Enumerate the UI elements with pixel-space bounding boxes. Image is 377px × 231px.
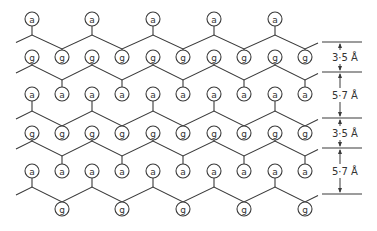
- group-node-a: a: [85, 164, 99, 178]
- group-node-g: g: [55, 50, 69, 64]
- group-node-g: g: [268, 126, 282, 140]
- group-node-g: g: [298, 50, 312, 64]
- arrow-down-icon: [338, 188, 342, 193]
- node-label: g: [89, 129, 95, 139]
- chain-backbone-5: [16, 187, 318, 202]
- group-node-g: g: [176, 202, 190, 216]
- node-label: g: [180, 129, 186, 139]
- group-node-g: g: [55, 126, 69, 140]
- group-node-a: a: [207, 164, 221, 178]
- group-node-a: a: [115, 164, 129, 178]
- group-node-g: g: [207, 50, 221, 64]
- spacing-indicator: 3·5 Å: [332, 119, 358, 147]
- node-label: g: [241, 205, 247, 215]
- scale-bar: 3·5 Å5·7 Å3·5 Å5·7 Å: [322, 42, 362, 194]
- chain-backbone-4: [16, 141, 318, 156]
- group-node-g: g: [115, 126, 129, 140]
- group-node-a: a: [146, 164, 160, 178]
- node-label: g: [241, 53, 247, 63]
- node-label: a: [29, 90, 35, 100]
- node-label: a: [272, 15, 278, 25]
- spacing-label: 3·5 Å: [332, 51, 358, 63]
- group-node-g: g: [85, 50, 99, 64]
- node-label: a: [302, 167, 308, 177]
- node-label: a: [119, 90, 125, 100]
- group-node-a: a: [85, 87, 99, 101]
- node-label: g: [119, 205, 125, 215]
- group-node-g: g: [25, 50, 39, 64]
- layered-chain-diagram: aaaaagggggaaaaaaaaaagggggaaaaaaaaaaggggg…: [0, 0, 377, 231]
- node-label: g: [272, 129, 278, 139]
- spacing-label: 3·5 Å: [332, 127, 358, 139]
- arrow-up-icon: [338, 149, 342, 154]
- node-label: a: [89, 167, 95, 177]
- group-node-g: g: [25, 126, 39, 140]
- group-node-a: a: [146, 12, 160, 26]
- node-label: a: [272, 90, 278, 100]
- group-node-a: a: [176, 164, 190, 178]
- group-node-g: g: [115, 202, 129, 216]
- node-label: g: [119, 129, 125, 139]
- group-node-g: g: [237, 202, 251, 216]
- node-label: a: [150, 167, 156, 177]
- node-label: a: [211, 167, 217, 177]
- group-node-a: a: [115, 87, 129, 101]
- node-label: a: [241, 90, 247, 100]
- arrow-up-icon: [338, 43, 342, 48]
- group-node-a: a: [25, 164, 39, 178]
- group-node-a: a: [55, 164, 69, 178]
- node-label: g: [59, 53, 65, 63]
- group-node-g: g: [85, 126, 99, 140]
- node-label: g: [150, 53, 156, 63]
- node-label: g: [272, 53, 278, 63]
- group-node-a: a: [25, 87, 39, 101]
- node-label: a: [241, 167, 247, 177]
- group-node-a: a: [146, 87, 160, 101]
- chain-backbone-1: [16, 35, 318, 49]
- node-label: a: [59, 90, 65, 100]
- group-node-g: g: [237, 126, 251, 140]
- group-node-a: a: [237, 87, 251, 101]
- group-node-g: g: [298, 202, 312, 216]
- group-node-g: g: [176, 126, 190, 140]
- group-node-g: g: [176, 50, 190, 64]
- node-label: g: [302, 129, 308, 139]
- spacing-indicator: 5·7 Å: [332, 149, 358, 193]
- group-node-g: g: [146, 126, 160, 140]
- node-label: g: [29, 129, 35, 139]
- arrow-up-icon: [338, 73, 342, 78]
- chain-backbone-3: [16, 111, 318, 126]
- group-node-a: a: [298, 87, 312, 101]
- node-label: g: [59, 129, 65, 139]
- group-node-g: g: [268, 50, 282, 64]
- node-label: g: [180, 205, 186, 215]
- node-label: a: [119, 167, 125, 177]
- node-label: a: [211, 90, 217, 100]
- node-label: g: [211, 129, 217, 139]
- group-node-g: g: [207, 126, 221, 140]
- group-node-g: g: [115, 50, 129, 64]
- node-label: g: [150, 129, 156, 139]
- node-label: a: [29, 15, 35, 25]
- node-label: a: [150, 90, 156, 100]
- group-node-g: g: [298, 126, 312, 140]
- node-label: a: [59, 167, 65, 177]
- node-label: a: [150, 15, 156, 25]
- node-label: g: [302, 205, 308, 215]
- node-label: g: [211, 53, 217, 63]
- spacing-label: 5·7 Å: [332, 89, 358, 101]
- node-label: g: [89, 53, 95, 63]
- group-node-a: a: [237, 164, 251, 178]
- chain-backbone-2: [16, 65, 318, 80]
- group-node-a: a: [268, 12, 282, 26]
- node-label: g: [119, 53, 125, 63]
- group-node-g: g: [55, 202, 69, 216]
- node-label: a: [302, 90, 308, 100]
- node-label: a: [89, 15, 95, 25]
- node-label: a: [29, 167, 35, 177]
- spacing-indicator: 3·5 Å: [332, 43, 358, 71]
- group-node-a: a: [207, 87, 221, 101]
- group-node-g: g: [146, 50, 160, 64]
- group-node-a: a: [176, 87, 190, 101]
- group-node-a: a: [55, 87, 69, 101]
